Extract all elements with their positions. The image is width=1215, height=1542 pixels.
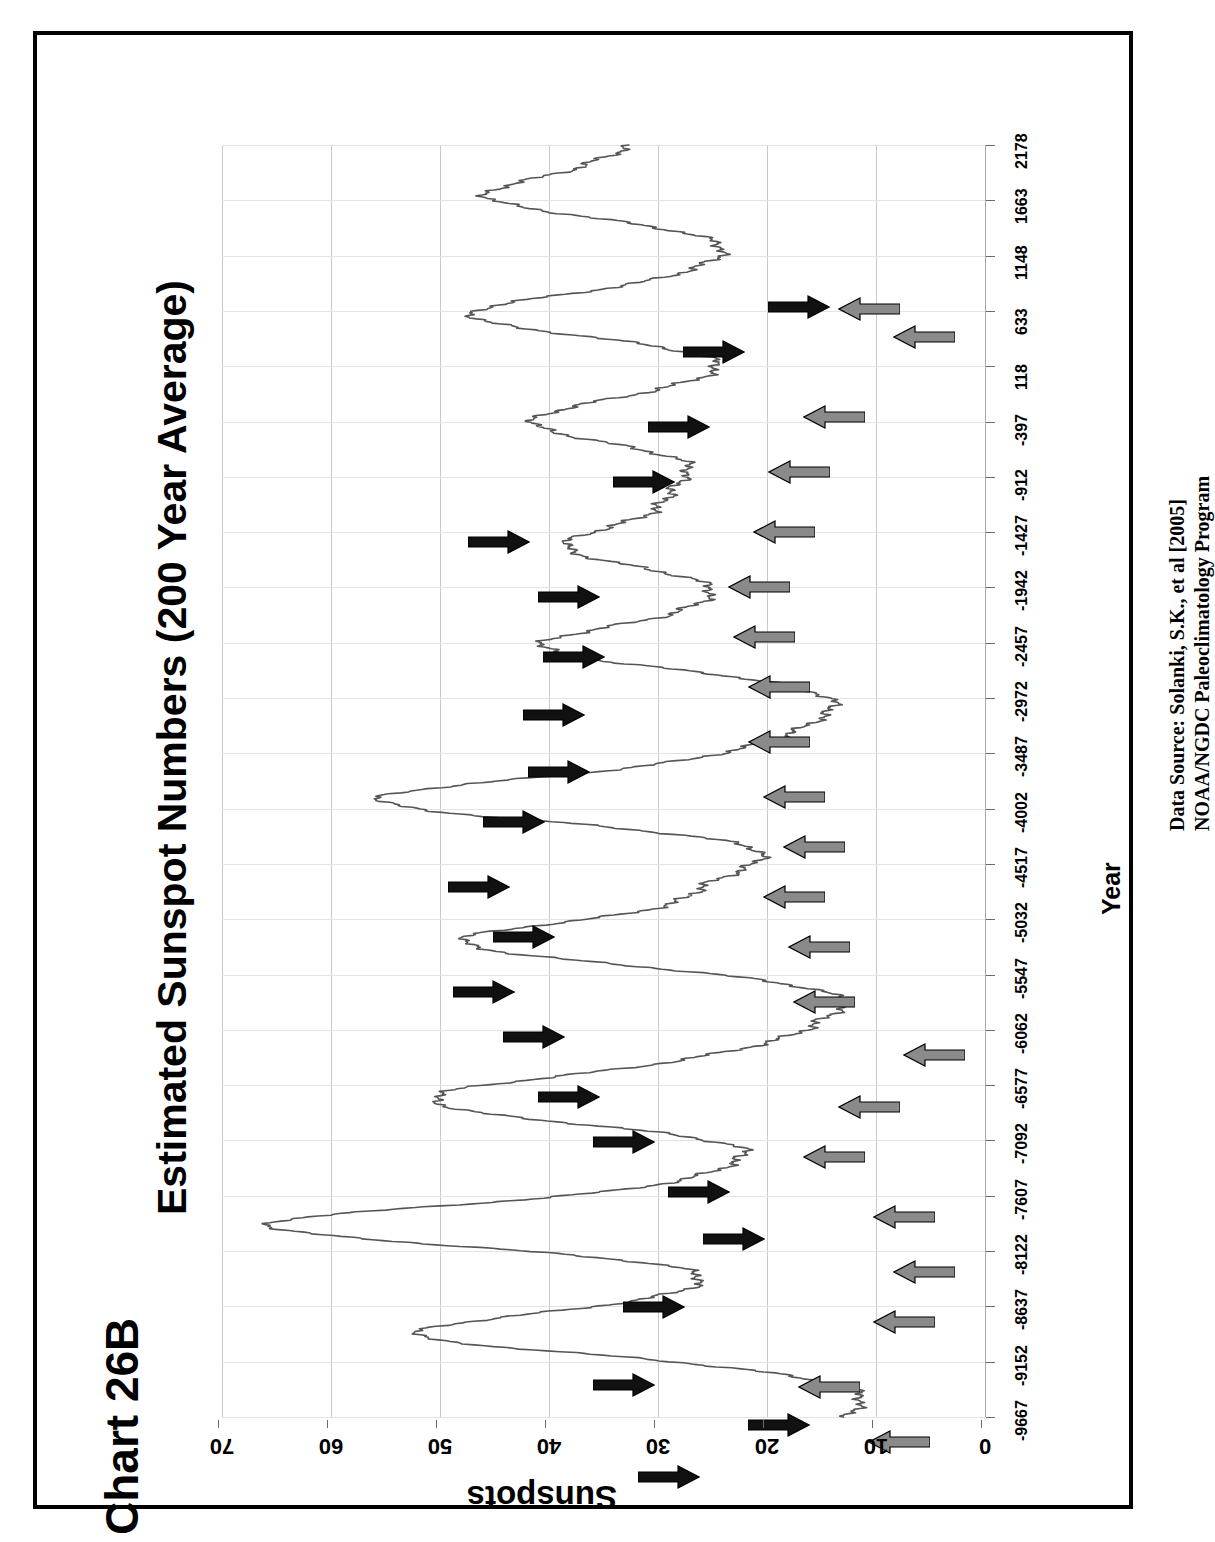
- year-tickmark: [986, 366, 995, 367]
- value-tick-label: 0: [963, 1433, 1007, 1459]
- data-source-line-2: NOAA/NGDC Paleoclimatology Program: [1190, 476, 1215, 831]
- year-tick-label: -9667: [1013, 1400, 1031, 1441]
- value-tickmark: [981, 1420, 982, 1428]
- year-tickmark: [986, 698, 995, 699]
- year-tick-label: -2972: [1013, 681, 1031, 722]
- year-tick-label: -4517: [1013, 847, 1031, 888]
- max-arrow-1: [638, 1465, 700, 1489]
- value-tickmark: [218, 1420, 219, 1428]
- year-tick-label: -397: [1013, 413, 1031, 445]
- value-tick-label: 70: [200, 1433, 244, 1459]
- year-tickmark: [986, 864, 995, 865]
- year-tick-label: -8122: [1013, 1234, 1031, 1275]
- value-tick-label: 60: [309, 1433, 353, 1459]
- value-tickmark: [436, 1420, 437, 1428]
- value-tickmark: [872, 1420, 873, 1428]
- year-tickmark: [986, 477, 995, 478]
- year-tickmark: [986, 919, 995, 920]
- y-axis-title: Sunspots: [467, 1478, 617, 1516]
- year-tickmark: [986, 145, 995, 146]
- sunspot-series-line: [222, 145, 985, 1417]
- year-tickmark: [986, 753, 995, 754]
- year-tick-label: -6062: [1013, 1013, 1031, 1054]
- year-gridline: [222, 1417, 985, 1418]
- year-tickmark: [986, 1306, 995, 1307]
- year-tick-label: 1148: [1013, 245, 1031, 280]
- data-source-line-1: Data Source: Solanki, S.K., et al [2005]: [1165, 476, 1190, 831]
- year-tick-label: 2178: [1013, 133, 1031, 169]
- value-tickmark: [763, 1420, 764, 1428]
- year-tick-label: 633: [1013, 308, 1031, 335]
- year-tickmark: [986, 1362, 995, 1363]
- year-tickmark: [986, 311, 995, 312]
- year-tickmark: [986, 1251, 995, 1252]
- value-tick-label: 10: [854, 1433, 898, 1459]
- year-tick-label: -4002: [1013, 792, 1031, 833]
- value-tick-label: 20: [745, 1433, 789, 1459]
- year-tick-label: -3487: [1013, 736, 1031, 777]
- year-tick-label: 118: [1013, 364, 1031, 390]
- figure-frame: Chart 26B Estimated Sunspot Numbers (200…: [33, 31, 1133, 1509]
- value-tickmark: [545, 1420, 546, 1428]
- x-axis-title: Year: [1097, 862, 1126, 915]
- value-axis-line: [985, 145, 986, 1417]
- value-tick-label: 30: [636, 1433, 680, 1459]
- value-tick-label: 40: [527, 1433, 571, 1459]
- year-tick-label: -5547: [1013, 958, 1031, 999]
- plot-area: [222, 145, 985, 1417]
- year-tick-label: -8637: [1013, 1289, 1031, 1330]
- chart-number-label: Chart 26B: [95, 1318, 149, 1535]
- year-tick-label: -1427: [1013, 515, 1031, 556]
- year-tick-label: -7092: [1013, 1124, 1031, 1165]
- year-tickmark: [986, 1030, 995, 1031]
- year-tick-label: -1942: [1013, 571, 1031, 612]
- year-tick-label: -9152: [1013, 1345, 1031, 1386]
- year-tickmark: [986, 1085, 995, 1086]
- value-tickmark: [654, 1420, 655, 1428]
- year-tickmark: [986, 587, 995, 588]
- value-tick-label: 50: [418, 1433, 462, 1459]
- year-tickmark: [986, 200, 995, 201]
- year-tick-label: 1663: [1013, 189, 1031, 225]
- year-tick-label: -5032: [1013, 902, 1031, 943]
- year-tickmark: [986, 256, 995, 257]
- year-tickmark: [986, 422, 995, 423]
- year-tickmark: [986, 809, 995, 810]
- page-title: Estimated Sunspot Numbers (200 Year Aver…: [149, 280, 196, 1215]
- year-tick-label: -912: [1013, 469, 1031, 501]
- data-source-note: Data Source: Solanki, S.K., et al [2005]…: [1165, 476, 1215, 831]
- year-tickmark: [986, 643, 995, 644]
- year-tick-label: -6577: [1013, 1068, 1031, 1109]
- year-tickmark: [986, 1140, 995, 1141]
- year-tickmark: [986, 1417, 995, 1418]
- year-tickmark: [986, 532, 995, 533]
- year-tickmark: [986, 975, 995, 976]
- year-tickmark: [986, 1196, 995, 1197]
- value-tickmark: [327, 1420, 328, 1428]
- year-tick-label: -7607: [1013, 1179, 1031, 1220]
- year-tick-label: -2457: [1013, 626, 1031, 667]
